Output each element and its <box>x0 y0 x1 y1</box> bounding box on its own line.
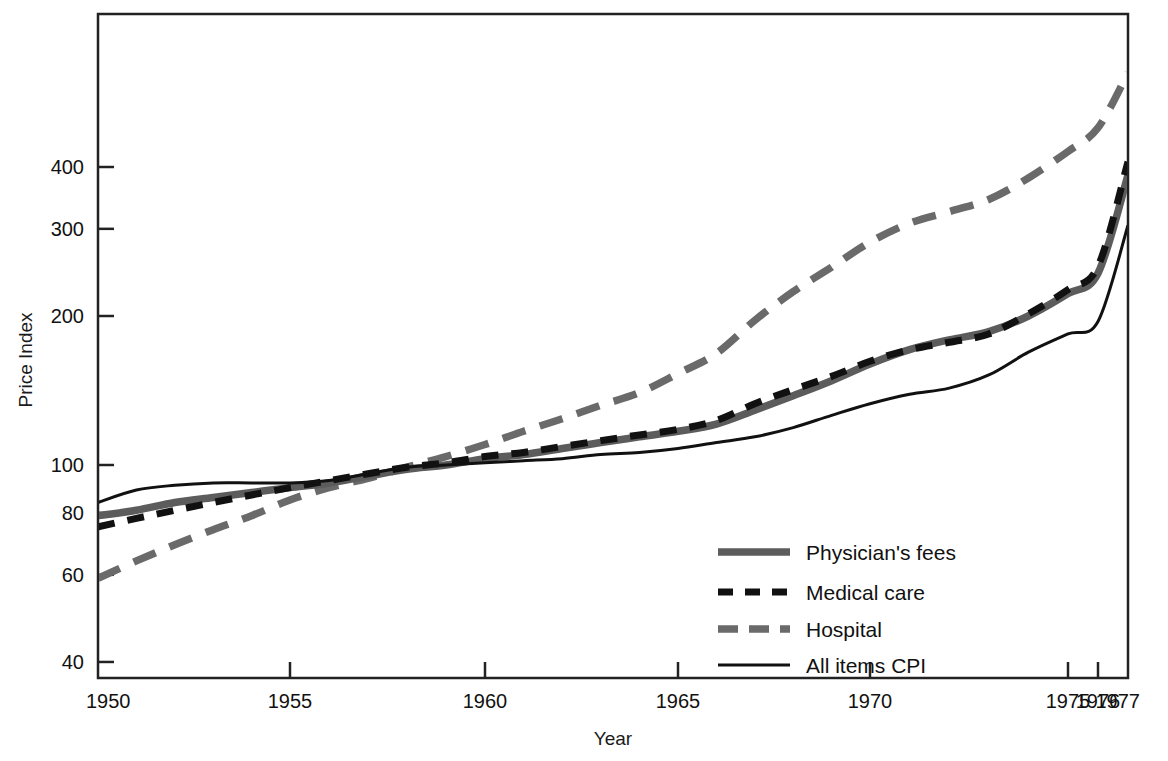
y-tick-label-400: 400 <box>51 156 84 178</box>
y-axis-title: Price Index <box>15 312 36 408</box>
y-tick-label-300: 300 <box>51 218 84 240</box>
x-tick-label-1977: 1977 <box>1096 690 1141 712</box>
x-tick-label-1950: 1950 <box>86 690 131 712</box>
legend-label-hospital: Hospital <box>806 618 882 641</box>
x-tick-label-1960: 1960 <box>463 690 508 712</box>
legend-label-all-items-cpi: All items CPI <box>806 654 926 677</box>
y-tick-label-60: 60 <box>62 564 84 586</box>
price-index-line-chart: 406080100200300400 195019551960196519701… <box>0 0 1168 761</box>
chart-background <box>0 0 1168 761</box>
chart-canvas: 406080100200300400 195019551960196519701… <box>0 0 1168 761</box>
legend-label-physician-s-fees: Physician's fees <box>806 541 956 564</box>
x-tick-label-1970: 1970 <box>848 690 893 712</box>
x-axis-title: Year <box>594 728 633 749</box>
y-tick-label-200: 200 <box>51 305 84 327</box>
y-tick-label-100: 100 <box>51 454 84 476</box>
y-tick-label-80: 80 <box>62 502 84 524</box>
x-tick-label-1965: 1965 <box>656 690 701 712</box>
x-tick-label-1955: 1955 <box>268 690 313 712</box>
legend-label-medical-care: Medical care <box>806 581 925 604</box>
y-tick-label-40: 40 <box>62 651 84 673</box>
